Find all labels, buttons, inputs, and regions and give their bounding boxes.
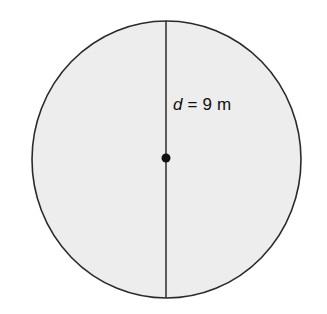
diameter-variable: d <box>173 95 183 114</box>
diameter-value: 9 <box>202 95 211 114</box>
center-point <box>162 154 171 163</box>
circle-diagram: d=9m <box>0 0 327 314</box>
diameter-label: d=9m <box>173 95 231 114</box>
equals-sign: = <box>187 95 197 114</box>
diameter-unit: m <box>217 95 231 114</box>
